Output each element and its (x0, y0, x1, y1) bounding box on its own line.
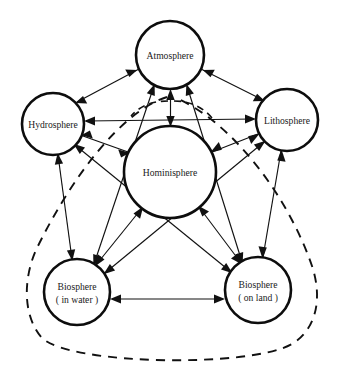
node-lithosphere[interactable]: Lithosphere (256, 89, 318, 151)
sphere-interaction-diagram: Atmosphere Hydrosphere Lithosphere Homin… (0, 0, 340, 369)
edge-lithosphere-biosphere-land (259, 149, 286, 259)
hydrosphere-label: Hydrosphere (28, 119, 78, 130)
diagram-canvas: Atmosphere Hydrosphere Lithosphere Homin… (0, 0, 340, 369)
edge-hominisphere-biosphere-water (95, 206, 143, 266)
lithosphere-label: Lithosphere (264, 115, 310, 126)
edge-hominisphere-biosphere-land (198, 205, 242, 264)
hominisphere-label: Hominisphere (143, 167, 197, 178)
edge-hydrosphere-hominisphere (81, 131, 130, 158)
biosphere-water-circle[interactable] (44, 259, 110, 325)
biosphere-land-label: Biosphere (239, 279, 278, 290)
node-biosphere-land[interactable]: Biosphere ( on land ) (225, 257, 291, 323)
edge-biosphere-water-biosphere-land (110, 295, 225, 304)
node-biosphere-water[interactable]: Biosphere ( in water ) (44, 259, 110, 325)
node-group: Atmosphere Hydrosphere Lithosphere Homin… (22, 21, 318, 325)
edge-atmosphere-lithosphere (201, 69, 265, 101)
node-hominisphere[interactable]: Hominisphere (124, 126, 216, 218)
hominisphere-dashed-arcs (131, 101, 212, 118)
biosphere-water-label: Biosphere (58, 281, 97, 292)
biosphere-land-sublabel: ( on land ) (238, 292, 278, 304)
node-atmosphere[interactable]: Atmosphere (136, 21, 204, 89)
edge-hydrosphere-biosphere-water (55, 153, 75, 261)
biosphere-land-circle[interactable] (225, 257, 291, 323)
node-hydrosphere[interactable]: Hydrosphere (22, 93, 84, 155)
edge-atmosphere-hominisphere (166, 89, 174, 127)
edge-lithosphere-hominisphere (210, 133, 260, 152)
atmosphere-label: Atmosphere (147, 50, 194, 61)
biosphere-water-sublabel: ( in water ) (56, 294, 98, 306)
edge-atmosphere-hydrosphere (75, 69, 139, 104)
